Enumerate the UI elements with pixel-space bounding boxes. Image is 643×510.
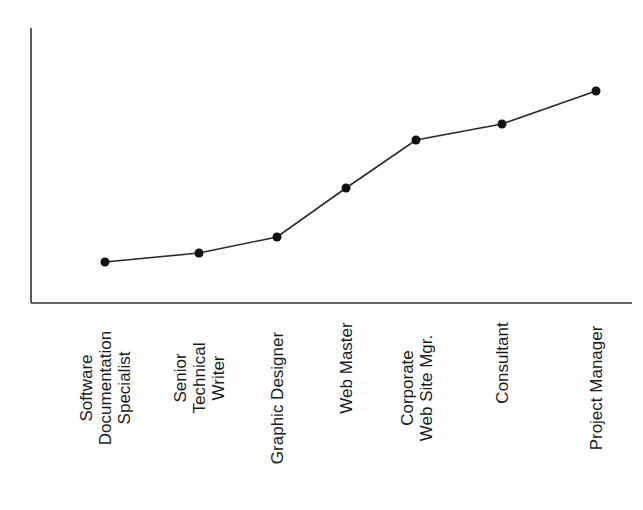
x-axis-label: SoftwareDocumentationSpecialist	[77, 331, 134, 445]
series-line	[105, 91, 596, 262]
x-axis-label-line: Software	[77, 354, 96, 421]
x-axis-label-line: Technical	[190, 343, 209, 414]
data-point-marker	[342, 184, 351, 193]
x-axis-label-line: Specialist	[115, 351, 134, 424]
x-axis-label-line: Writer	[209, 355, 228, 400]
data-point-marker	[195, 249, 204, 258]
x-axis-label: Project Manager	[587, 325, 606, 450]
x-axis-label-line: Documentation	[96, 331, 115, 445]
x-axis-label-line: Senior	[171, 353, 190, 402]
x-axis-labels: SoftwareDocumentationSpecialistSeniorTec…	[77, 322, 606, 464]
x-axis-label: CorporateWeb Site Mgr.	[398, 335, 436, 441]
x-axis-label: Consultant	[493, 322, 512, 404]
x-axis-label-line: Web Master	[337, 322, 356, 414]
data-point-marker	[412, 136, 421, 145]
data-point-marker	[498, 120, 507, 129]
x-axis-label-line: Web Site Mgr.	[417, 335, 436, 441]
data-point-marker	[101, 258, 110, 267]
x-axis-label-line: Consultant	[493, 322, 512, 404]
x-axis-label: Graphic Designer	[268, 332, 287, 465]
x-axis-label-line: Project Manager	[587, 325, 606, 450]
data-points	[101, 87, 601, 267]
x-axis-label-line: Graphic Designer	[268, 332, 287, 465]
x-axis-label-line: Corporate	[398, 350, 417, 426]
data-point-marker	[592, 87, 601, 96]
x-axis-label: Web Master	[337, 322, 356, 414]
line-chart: SoftwareDocumentationSpecialistSeniorTec…	[0, 0, 643, 510]
x-axis-label: SeniorTechnicalWriter	[171, 343, 228, 414]
axes	[31, 28, 632, 303]
data-point-marker	[273, 233, 282, 242]
